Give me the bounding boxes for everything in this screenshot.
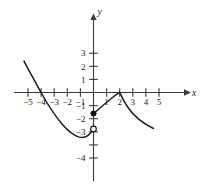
y-tick-label: 1	[81, 75, 86, 85]
y-tick-label: −4	[76, 153, 86, 163]
x-tick-label: 3	[131, 97, 136, 107]
function-graph-figure: −5 −4 −3 −2 −1 1 2 3 4 5 3 2 1 −1 −2 −3 …	[0, 0, 202, 193]
x-tick-label: −2	[63, 97, 73, 107]
x-tick-label: −3	[49, 97, 59, 107]
y-tick-label: −1	[76, 101, 86, 111]
open-endpoint-marker	[91, 126, 97, 132]
y-tick-labels: 3 2 1 −1 −2 −3 −4	[76, 48, 86, 163]
y-tick-label: 2	[81, 62, 86, 72]
x-axis-label: x	[191, 88, 197, 98]
plot-canvas: −5 −4 −3 −2 −1 1 2 3 4 5 3 2 1 −1 −2 −3 …	[0, 0, 202, 193]
x-tick-label: 4	[144, 97, 149, 107]
x-axis-arrow-icon	[184, 89, 191, 95]
x-tick-label: −5	[23, 97, 33, 107]
y-axis-arrow-icon	[90, 14, 96, 21]
y-tick-label: −2	[76, 114, 86, 124]
x-tick-label: 5	[157, 97, 162, 107]
x-tick-label: 2	[117, 97, 122, 107]
y-axis-label: y	[96, 7, 102, 17]
closed-endpoint-marker	[91, 111, 96, 116]
y-tick-label: −3	[76, 127, 86, 137]
y-tick-label: 3	[81, 48, 86, 58]
